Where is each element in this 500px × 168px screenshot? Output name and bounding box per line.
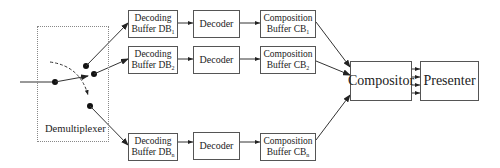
decoding-buffer-n: Decoding Buffer DBn [128,133,178,161]
demultiplexer-label: Demultiplexer [45,123,106,134]
decoding-buffer-2-line1: Decoding [135,49,172,60]
presenter: Presenter [420,61,479,101]
decoder-n: Decoder [193,132,240,160]
decoding-buffer-n-line2: Buffer DBn [131,147,174,159]
decoding-buffer-2: Decoding Buffer DB2 [128,46,178,74]
composition-buffer-1: Composition Buffer CB1 [260,10,316,38]
decoding-buffer-2-line2: Buffer DB2 [131,60,174,72]
composition-buffer-2-line2: Buffer CB2 [267,60,310,72]
decoder-1-label: Decoder [200,18,234,30]
decoder-1: Decoder [193,10,240,38]
composition-buffer-1-line1: Composition [263,13,312,24]
decoding-buffer-1: Decoding Buffer DB1 [128,10,178,38]
decoding-buffer-1-line1: Decoding [135,13,172,24]
decoding-buffer-1-line2: Buffer DB1 [131,24,174,36]
decoder-n-label: Decoder [200,140,234,152]
composition-buffer-1-line2: Buffer CB1 [267,24,310,36]
compositor-label: Compositor [348,73,414,89]
decoder-2-label: Decoder [200,54,234,66]
composition-buffer-2-line1: Composition [263,49,312,60]
compositor: Compositor [350,61,412,101]
composition-buffer-n: Composition Buffer CBn [260,133,316,161]
decoder-2: Decoder [193,46,240,74]
decoding-buffer-n-line1: Decoding [135,136,172,147]
composition-buffer-2: Composition Buffer CB2 [260,46,316,74]
composition-buffer-n-line2: Buffer CBn [267,147,310,159]
composition-buffer-n-line1: Composition [263,136,312,147]
presenter-label: Presenter [423,73,475,89]
